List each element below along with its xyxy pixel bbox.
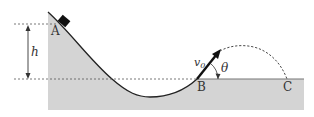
label-point-a: A: [50, 24, 60, 38]
label-velocity: v0: [194, 56, 205, 70]
label-point-b: B: [197, 80, 206, 94]
projectile-trajectory: [220, 46, 287, 79]
angle-arc: [210, 63, 218, 79]
label-angle: θ: [221, 61, 229, 75]
height-arrow: [26, 25, 31, 79]
angle-arc-arrowhead: [216, 74, 221, 80]
label-point-c: C: [283, 80, 292, 94]
label-height: h: [31, 45, 39, 59]
ground-fill: [48, 12, 304, 110]
physics-diagram: A h B C v0 θ: [0, 0, 314, 117]
